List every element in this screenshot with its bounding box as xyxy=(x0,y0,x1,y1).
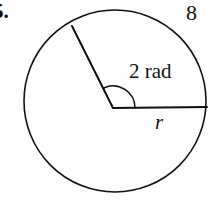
arc-length-label: 8 xyxy=(186,2,197,24)
radius-label: r xyxy=(155,112,163,133)
circle-outline xyxy=(24,10,206,192)
slanted-radius-line xyxy=(72,26,113,108)
problem-number-label: 5. xyxy=(0,1,9,22)
horizontal-radius-line xyxy=(113,107,207,108)
circle-diagram-svg xyxy=(0,0,212,204)
geometry-figure: 5. 8 2 rad r xyxy=(0,0,212,204)
central-angle-label: 2 rad xyxy=(129,61,172,82)
